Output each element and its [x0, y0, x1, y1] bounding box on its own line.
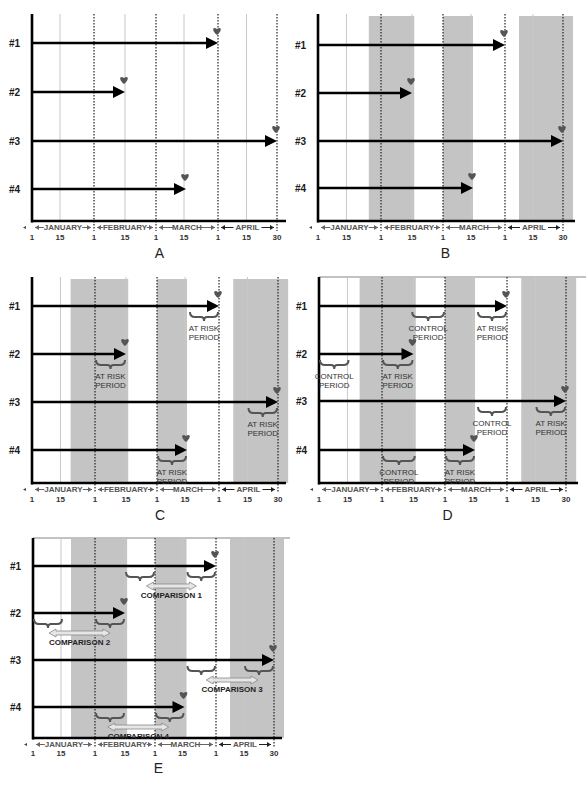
- tick-label: 1: [93, 495, 98, 504]
- comparison-label: COMPARISON 1: [141, 591, 203, 600]
- tick-label: 15: [121, 233, 130, 242]
- panel-c: #1#2#3#4AT RISKPERIODAT RISKPERIODAT RIS…: [9, 277, 288, 523]
- row-label: #2: [10, 608, 22, 619]
- month-span-right-arrow-icon: [209, 742, 213, 747]
- tick-label: 15: [122, 495, 131, 504]
- tick-label: 15: [469, 495, 478, 504]
- month-label: MARCH: [461, 485, 491, 494]
- month-span-left-arrow-icon: [97, 225, 101, 230]
- axis-left-arrow-icon: [309, 226, 312, 229]
- month-span-left-arrow-icon: [508, 225, 512, 230]
- month-label: FEBRUARY: [390, 223, 435, 232]
- month-span-left-arrow-icon: [98, 487, 102, 492]
- row-label: #2: [9, 349, 21, 360]
- tick-label: 30: [273, 233, 282, 242]
- tick-label: 1: [153, 749, 158, 758]
- period-label-line1: AT RISK: [248, 420, 279, 429]
- period-label-line2: PERIOD: [477, 333, 508, 342]
- period-brace: [34, 619, 62, 628]
- axis-left-arrow-icon: [310, 488, 313, 491]
- arrowhead-icon: [204, 560, 216, 572]
- axis-left-arrow-icon: [23, 488, 26, 491]
- month-span-left-arrow-icon: [222, 487, 226, 492]
- row-label: #4: [9, 184, 21, 195]
- month-label: JANUARY: [44, 223, 83, 232]
- month-span-left-arrow-icon: [158, 742, 162, 747]
- heart-event-icon: [181, 174, 189, 181]
- period-label-line2: PERIOD: [477, 428, 508, 437]
- row-label: #3: [9, 136, 21, 147]
- tick-label: 15: [121, 749, 130, 758]
- month-span-right-arrow-icon: [498, 225, 502, 230]
- heart-event-icon: [213, 28, 221, 35]
- month-label: MARCH: [171, 740, 201, 749]
- month-span-right-arrow-icon: [374, 225, 378, 230]
- shaded-period-band: [233, 279, 288, 483]
- month-label: JANUARY: [330, 223, 369, 232]
- tick-label: 1: [30, 495, 35, 504]
- arrowhead-icon: [113, 86, 125, 98]
- tick-label: 15: [56, 495, 65, 504]
- month-span-right-arrow-icon: [438, 487, 442, 492]
- period-label-line2: PERIOD: [535, 428, 566, 437]
- period-label-line1: AT RISK: [477, 324, 508, 333]
- month-span-left-arrow-icon: [321, 225, 325, 230]
- row-label: #4: [295, 183, 307, 194]
- month-label: JANUARY: [331, 485, 370, 494]
- period-label-line1: CONTROL: [379, 468, 419, 477]
- heart-event-icon: [120, 77, 128, 84]
- month-span-right-arrow-icon: [500, 487, 504, 492]
- tick-label: 15: [242, 233, 251, 242]
- row-label: #4: [9, 445, 21, 456]
- comparison-label: COMPARISON 3: [201, 685, 263, 694]
- month-span-right-arrow-icon: [88, 487, 92, 492]
- month-label: APRIL: [237, 485, 261, 494]
- period-label-line1: CONTROL: [315, 372, 355, 381]
- month-label: MARCH: [172, 223, 202, 232]
- tick-label: 15: [181, 495, 190, 504]
- arrowhead-icon: [207, 300, 219, 312]
- month-label: APRIL: [233, 740, 257, 749]
- period-label-line1: CONTROL: [409, 324, 449, 333]
- tick-label: 15: [467, 233, 476, 242]
- period-brace: [478, 407, 506, 416]
- row-label: #1: [10, 561, 22, 572]
- panel-a: #1#2#3#4JANUARYFEBRUARYMARCHAPRIL1151151…: [9, 14, 286, 261]
- heart-event-icon: [214, 291, 222, 298]
- month-span-left-arrow-icon: [36, 742, 40, 747]
- panel-letter: C: [155, 507, 165, 523]
- tick-label: 1: [379, 233, 384, 242]
- row-label: #3: [296, 396, 308, 407]
- tick-label: 15: [180, 233, 189, 242]
- period-label-line2: PERIOD: [413, 333, 444, 342]
- shaded-period-band: [157, 279, 187, 483]
- period-label-line1: AT RISK: [536, 419, 567, 428]
- tick-label: 15: [408, 233, 417, 242]
- panel-d: #1#2#3#4CONTROLPERIODAT RISKPERIODCONTRO…: [296, 277, 586, 523]
- month-span-right-arrow-icon: [212, 487, 216, 492]
- month-span-left-arrow-icon: [98, 742, 102, 747]
- case-crossover-diagram: #1#2#3#4JANUARYFEBRUARYMARCHAPRIL1151151…: [0, 0, 588, 785]
- month-label: FEBRUARY: [103, 740, 148, 749]
- row-label: #2: [296, 349, 308, 360]
- arrowhead-icon: [493, 39, 505, 51]
- shaded-period-band: [369, 16, 414, 221]
- row-label: #4: [10, 702, 22, 713]
- period-label-line1: AT RISK: [95, 372, 126, 381]
- month-span-left-arrow-icon: [322, 487, 326, 492]
- tick-label: 1: [505, 495, 510, 504]
- tick-label: 30: [270, 749, 279, 758]
- tick-label: 15: [409, 495, 418, 504]
- month-span-left-arrow-icon: [159, 225, 163, 230]
- period-label-line1: AT RISK: [445, 468, 476, 477]
- month-span-right-arrow-icon: [375, 487, 379, 492]
- month-span-left-arrow-icon: [221, 225, 225, 230]
- month-span-left-arrow-icon: [160, 487, 164, 492]
- period-brace: [478, 312, 506, 321]
- tick-label: 15: [531, 495, 540, 504]
- tick-label: 30: [562, 495, 571, 504]
- period-brace: [190, 312, 218, 321]
- month-label: MARCH: [459, 223, 489, 232]
- axis-left-arrow-icon: [23, 226, 26, 229]
- month-label: JANUARY: [45, 740, 84, 749]
